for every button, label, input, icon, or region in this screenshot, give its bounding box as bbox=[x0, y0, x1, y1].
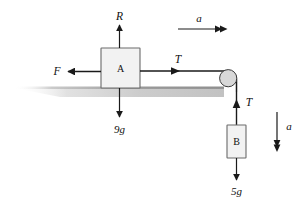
acceleration-top-arrow bbox=[178, 26, 228, 33]
normal-reaction-label: R bbox=[115, 10, 123, 22]
weight-a-label: 9g bbox=[114, 123, 126, 135]
rope-horizontal bbox=[140, 67, 228, 75]
acceleration-top-label: a bbox=[196, 12, 202, 24]
tension-side-arrowhead bbox=[233, 99, 241, 108]
tension-side-label: T bbox=[246, 96, 254, 108]
diagram-canvas: R F T T 9g 5g a a A B bbox=[0, 0, 300, 200]
acceleration-top-head-2 bbox=[220, 26, 228, 33]
acceleration-right-head-2 bbox=[274, 145, 281, 153]
block-b-label: B bbox=[233, 136, 240, 147]
block-a-label: A bbox=[117, 63, 125, 74]
rope-vertical bbox=[233, 92, 241, 125]
tension-top-label: T bbox=[175, 53, 183, 65]
weight-b-label: 5g bbox=[231, 185, 243, 197]
pulley-wheel bbox=[220, 70, 237, 87]
tension-top-arrowhead bbox=[171, 67, 180, 75]
friction-label: F bbox=[52, 65, 61, 77]
acceleration-right-arrow bbox=[274, 112, 281, 152]
acceleration-right-label: a bbox=[286, 120, 292, 132]
physics-diagram: R F T T 9g 5g a a A B bbox=[0, 0, 300, 200]
